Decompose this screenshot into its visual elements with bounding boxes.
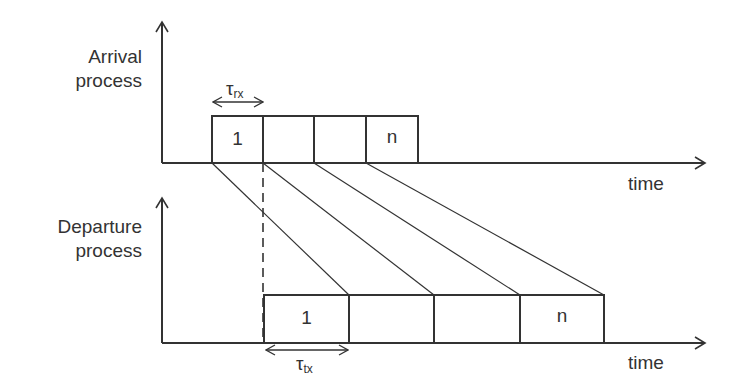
arrival-box-1-label: 1 bbox=[212, 128, 263, 150]
departure-box-1-label: 1 bbox=[264, 307, 349, 329]
tau-symbol: τ bbox=[226, 78, 234, 99]
departure-label-line2: process bbox=[20, 239, 142, 263]
departure-box-n-label: n bbox=[520, 305, 604, 327]
mapping-lines bbox=[212, 163, 604, 295]
arrival-label-line1: Arrival bbox=[40, 45, 142, 69]
mapping-line-3 bbox=[314, 163, 520, 295]
mapping-line-n bbox=[366, 163, 604, 295]
arrival-time-label: time bbox=[628, 173, 664, 195]
mapping-line-1 bbox=[212, 163, 349, 295]
tau-rx-label: τrx bbox=[226, 78, 244, 101]
departure-process-label: Departure process bbox=[20, 215, 142, 263]
arrival-process-label: Arrival process bbox=[40, 45, 142, 93]
arrival-label-line2: process bbox=[40, 69, 142, 93]
departure-time-label: time bbox=[628, 352, 664, 374]
tau-subscript: rx bbox=[234, 87, 244, 101]
tau-tx-label: τtx bbox=[296, 353, 313, 376]
tau-symbol: τ bbox=[296, 353, 304, 374]
mapping-line-2 bbox=[263, 163, 434, 295]
departure-label-line1: Departure bbox=[20, 215, 142, 239]
arrival-box-n-label: n bbox=[366, 126, 418, 148]
arrival-box-2 bbox=[263, 116, 314, 163]
departure-box-3 bbox=[434, 295, 520, 343]
tau-subscript: tx bbox=[304, 362, 313, 376]
arrival-box-3 bbox=[314, 116, 366, 163]
departure-box-2 bbox=[349, 295, 434, 343]
